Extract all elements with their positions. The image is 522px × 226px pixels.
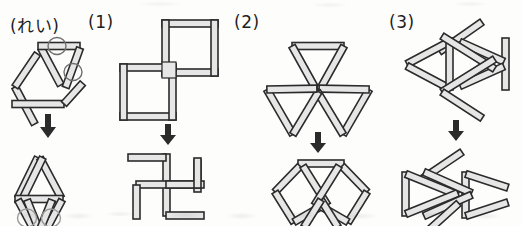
q2-after-figure	[272, 160, 370, 226]
panel-question-2	[262, 28, 382, 224]
worksheet-sheet: (れい) (1) (2) (3)	[0, 0, 522, 226]
panel-question-1	[118, 14, 234, 220]
label-question-2: (2)	[234, 12, 260, 32]
panel-example	[0, 32, 110, 224]
q1-after-figure	[128, 154, 204, 219]
panel-question-3	[398, 16, 522, 222]
q1-before-figure	[120, 20, 218, 120]
q3-after-figure	[402, 149, 509, 226]
down-arrow-icon	[310, 132, 326, 153]
down-arrow-icon	[448, 120, 464, 141]
down-arrow-icon	[40, 114, 56, 138]
q2-before-figure	[262, 43, 373, 139]
label-question-1: (1)	[88, 12, 114, 32]
example-before-figure	[12, 38, 85, 126]
q3-before-figure	[405, 19, 509, 121]
down-arrow-icon	[160, 124, 176, 145]
example-after-figure	[15, 156, 65, 226]
scan-artifact-top	[0, 0, 522, 10]
